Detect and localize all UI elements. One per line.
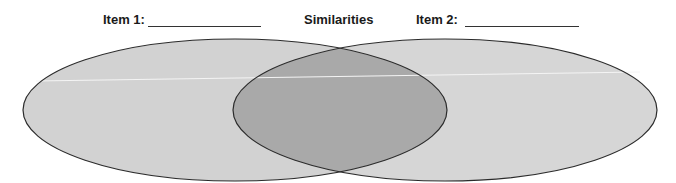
venn-diagram <box>0 0 676 183</box>
